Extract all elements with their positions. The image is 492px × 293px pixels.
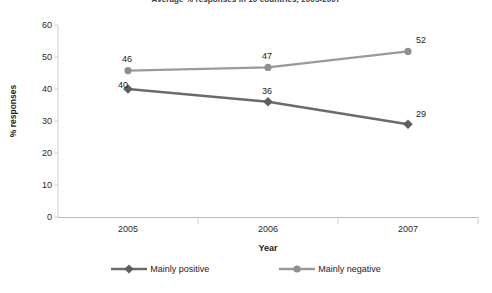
data-label-positive-2007: 29 [416, 109, 426, 119]
x-tick-label-2006: 2006 [228, 224, 308, 234]
data-label-positive-2006: 36 [262, 86, 272, 96]
diamond-marker-icon [111, 263, 147, 275]
data-point-negative-2005 [124, 67, 131, 74]
data-point-negative-2007 [404, 48, 411, 55]
data-point-negative-2006 [264, 64, 271, 71]
data-label-positive-2005: 40 [118, 80, 128, 90]
legend-item-mainly-negative[interactable]: Mainly negative [279, 263, 381, 275]
chart-legend: Mainly positive Mainly negative [0, 263, 492, 275]
x-tick-label-2007: 2007 [368, 224, 448, 234]
data-point-positive-2007 [403, 119, 413, 129]
x-axis-ticks [198, 217, 478, 224]
x-axis-title: Year [58, 243, 478, 253]
data-point-positive-2006 [263, 97, 273, 107]
legend-label-mainly-positive: Mainly positive [150, 264, 209, 274]
circle-marker-icon [279, 263, 315, 275]
data-label-negative-2006: 47 [262, 51, 272, 61]
line-chart: Average % responses in 10 countries, 200… [0, 0, 492, 293]
x-tick-label-2005: 2005 [88, 224, 168, 234]
legend-item-mainly-positive[interactable]: Mainly positive [111, 263, 209, 275]
legend-label-mainly-negative: Mainly negative [318, 264, 381, 274]
data-label-negative-2005: 46 [122, 54, 132, 64]
y-axis-ticks [54, 25, 58, 217]
data-label-negative-2007: 52 [416, 35, 426, 45]
